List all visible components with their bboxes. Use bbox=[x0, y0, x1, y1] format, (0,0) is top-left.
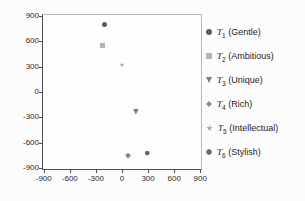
x-tick-label: -600 bbox=[56, 174, 84, 184]
y-tick-mark bbox=[39, 67, 42, 68]
legend-item-T3: T3 (Unique) bbox=[206, 68, 305, 92]
x-tick-label: 300 bbox=[134, 174, 162, 184]
x-tick-mark bbox=[44, 170, 45, 173]
legend-item-T1: T1 (Gentle) bbox=[206, 20, 305, 44]
triangle-down-icon bbox=[206, 77, 212, 83]
x-tick-label: 0 bbox=[108, 174, 136, 184]
legend-item-T5: T5 (Intellectual) bbox=[206, 116, 305, 140]
diamond-icon bbox=[206, 101, 212, 107]
y-tick-label: -300 bbox=[12, 112, 39, 122]
legend-label-T3: T3 (Unique) bbox=[217, 75, 263, 85]
legend-item-T4: T4 (Rich) bbox=[206, 92, 305, 116]
y-tick-mark bbox=[39, 168, 42, 169]
hexagon-icon bbox=[206, 149, 212, 155]
y-tick-label: 600 bbox=[12, 36, 39, 46]
x-tick-mark bbox=[174, 170, 175, 173]
scatter-chart: 9006003000-300-600-900 -900-600-30003006… bbox=[0, 0, 305, 201]
legend-item-T6: T6 (Stylish) bbox=[206, 140, 305, 164]
legend-item-T2: T2 (Ambitious) bbox=[206, 44, 305, 68]
y-tick-label: -600 bbox=[12, 138, 39, 148]
y-tick-label: 900 bbox=[12, 11, 39, 21]
data-point-T1 bbox=[102, 22, 107, 27]
legend-label-T5: T5 (Intellectual) bbox=[218, 123, 278, 133]
y-tick-label: 300 bbox=[12, 62, 39, 72]
legend-label-T1: T1 (Gentle) bbox=[217, 27, 261, 37]
x-tick-label: -900 bbox=[30, 174, 58, 184]
x-tick-mark bbox=[122, 170, 123, 173]
x-tick-mark bbox=[96, 170, 97, 173]
star-icon bbox=[206, 125, 213, 132]
x-tick-mark bbox=[200, 170, 201, 173]
y-tick-mark bbox=[39, 41, 42, 42]
y-tick-mark bbox=[39, 143, 42, 144]
x-tick-mark bbox=[148, 170, 149, 173]
y-tick-mark bbox=[39, 117, 42, 118]
x-tick-mark bbox=[70, 170, 71, 173]
x-tick-label: -300 bbox=[82, 174, 110, 184]
square-icon bbox=[206, 53, 212, 59]
legend: T1 (Gentle)T2 (Ambitious)T3 (Unique)T4 (… bbox=[206, 0, 305, 201]
x-tick-label: 600 bbox=[160, 174, 188, 184]
legend-label-T6: T6 (Stylish) bbox=[217, 147, 261, 157]
y-tick-mark bbox=[39, 92, 42, 93]
y-tick-label: 0 bbox=[12, 87, 39, 97]
legend-label-T4: T4 (Rich) bbox=[217, 99, 252, 109]
legend-label-T2: T2 (Ambitious) bbox=[217, 51, 274, 61]
circle-icon bbox=[206, 29, 212, 35]
data-point-T2 bbox=[100, 43, 105, 48]
y-tick-label: -900 bbox=[12, 163, 39, 173]
y-tick-mark bbox=[39, 16, 42, 17]
plot-area bbox=[42, 14, 202, 170]
